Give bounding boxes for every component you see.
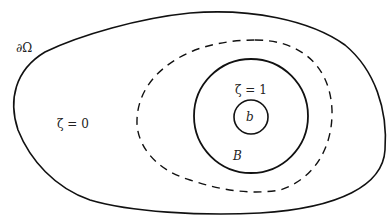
domain-diagram: [0, 0, 392, 224]
ball-label: B: [233, 150, 242, 162]
small-ball-label: b: [246, 111, 254, 123]
zeta-zero-label: ζ = 0: [57, 118, 89, 130]
boundary-label: ∂Ω: [16, 42, 32, 54]
zeta-one-label: ζ = 1: [235, 84, 267, 96]
